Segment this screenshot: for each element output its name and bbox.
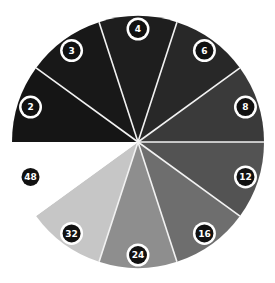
badge-8: 8 bbox=[234, 96, 257, 119]
badge-label: 6 bbox=[201, 46, 207, 56]
badge-16: 16 bbox=[193, 222, 216, 245]
stops-wheel: 234681216243248 bbox=[0, 0, 275, 283]
badge-6: 6 bbox=[193, 39, 216, 62]
badge-label: 24 bbox=[132, 250, 145, 260]
badge-label: 4 bbox=[135, 24, 141, 34]
badge-label: 8 bbox=[242, 102, 248, 112]
badge-32: 32 bbox=[60, 222, 83, 245]
badge-label: 32 bbox=[65, 229, 78, 239]
badge-4: 4 bbox=[127, 18, 150, 41]
badge-label: 16 bbox=[198, 229, 211, 239]
badge-12: 12 bbox=[234, 165, 257, 188]
badge-label: 48 bbox=[24, 172, 37, 182]
badge-label: 12 bbox=[239, 172, 252, 182]
badge-24: 24 bbox=[127, 244, 150, 267]
badge-3: 3 bbox=[60, 39, 83, 62]
badge-2: 2 bbox=[19, 96, 42, 119]
badge-label: 3 bbox=[68, 46, 74, 56]
badge-label: 2 bbox=[27, 102, 33, 112]
